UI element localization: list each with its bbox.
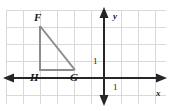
y-axis-label: y [113,12,117,21]
x-axis-unit-tick-label: 1 [113,83,118,92]
y-axis-arrow-up-icon [100,7,109,18]
x-axis-arrow-left-icon [3,74,14,83]
y-axis-arrow-down-icon [100,95,109,106]
coordinate-plane-svg [0,0,170,111]
x-axis [3,74,167,83]
x-axis-label: x [156,89,161,98]
vertex-label-G: G [70,72,78,83]
vertex-label-H: H [30,72,39,83]
vertex-label-F: F [34,12,41,23]
geometry-figure: F H G y x 1 1 [0,0,170,111]
y-axis-unit-tick-label: 1 [93,57,98,66]
grid-lines [6,10,166,104]
x-axis-arrow-right-icon [156,74,167,83]
y-axis [100,7,109,106]
